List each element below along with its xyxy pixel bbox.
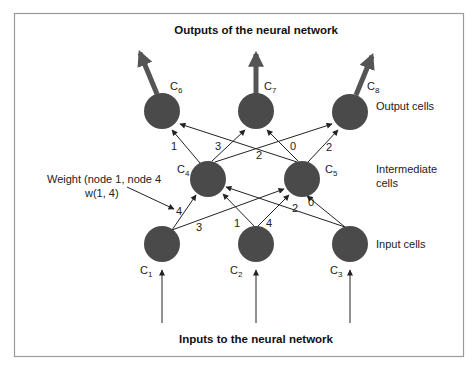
label-c5: C5 xyxy=(325,163,338,178)
label-c8: C8 xyxy=(367,80,380,95)
label-c1: C1 xyxy=(140,264,153,279)
weight-annotation-line2: w(1, 4) xyxy=(84,187,119,199)
node-c8 xyxy=(332,94,368,130)
outputs-title: Outputs of the neural network xyxy=(174,24,338,36)
node-c4 xyxy=(190,161,226,197)
output-arrow-c6 xyxy=(140,53,157,94)
weight-annotation-line1: Weight (node 1, node 4 xyxy=(47,173,161,185)
edge-c3-c4 xyxy=(226,187,345,227)
weight-c1-c5: 3 xyxy=(196,221,202,233)
node-c3 xyxy=(332,226,368,262)
input-cells-label: Input cells xyxy=(376,238,426,250)
weight-c4-c6: 1 xyxy=(171,140,177,152)
input-arrows xyxy=(162,270,350,323)
weight-c1-c4: 4 xyxy=(176,205,182,217)
edge-c4-c8 xyxy=(215,124,332,162)
annotation-arrow xyxy=(127,187,174,209)
weight-c4-c8: 2 xyxy=(256,149,262,161)
inputs-title: Inputs to the neural network xyxy=(179,333,334,345)
node-c6 xyxy=(144,93,180,129)
label-c7: C7 xyxy=(264,80,277,95)
weight-c5-c8: 2 xyxy=(326,141,332,153)
weight-c2-c4: 1 xyxy=(234,217,240,229)
intermediate-cells-label-line1: Intermediate xyxy=(376,163,437,175)
label-c4: C4 xyxy=(177,163,190,178)
node-c2 xyxy=(238,226,274,262)
weight-c5-c7: 0 xyxy=(290,140,296,152)
label-c3: C3 xyxy=(330,264,343,279)
weight-c3-c4: 2 xyxy=(292,202,298,214)
intermediate-cells-label-line2: cells xyxy=(376,177,399,189)
neural-network-diagram: Outputs of the neural network Inputs to … xyxy=(0,0,474,367)
label-c6: C6 xyxy=(170,80,183,95)
edge-c5-c8 xyxy=(308,130,338,162)
weight-c4-c7: 3 xyxy=(215,140,221,152)
output-cells-label: Output cells xyxy=(376,100,435,112)
edges-intermediate-to-output xyxy=(172,124,338,163)
node-c5 xyxy=(284,161,320,197)
label-c2: C2 xyxy=(230,264,243,279)
node-c7 xyxy=(238,93,274,129)
node-c1 xyxy=(144,226,180,262)
edge-c2-c5 xyxy=(256,195,289,228)
weight-c3-c5: 0 xyxy=(308,196,314,208)
weight-c2-c5: 4 xyxy=(266,217,272,229)
